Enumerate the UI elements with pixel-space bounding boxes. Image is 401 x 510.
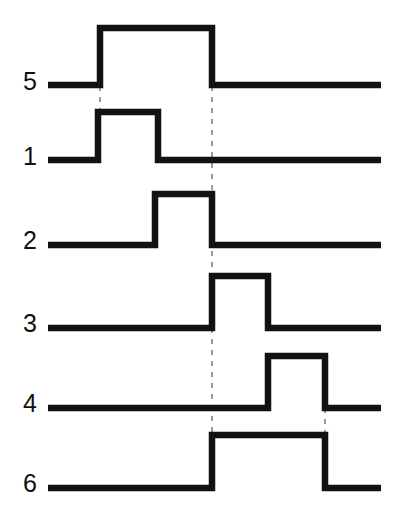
signal-label-3: 3: [23, 309, 37, 337]
signal-label-2: 2: [23, 226, 37, 254]
waveform-signal-5: [48, 28, 381, 85]
signal-label-1: 1: [23, 142, 37, 170]
timing-diagram-canvas: 512346: [0, 0, 401, 510]
waveform-signal-3: [48, 276, 381, 328]
waveform-signal-1: [48, 112, 381, 160]
guide-lines-group: [100, 86, 325, 436]
signal-label-6: 6: [23, 469, 37, 497]
waveform-signal-2: [48, 194, 381, 245]
waveform-signal-6: [48, 435, 381, 488]
waveform-signal-4: [48, 356, 381, 408]
waveforms-group: [48, 28, 381, 488]
signal-label-4: 4: [23, 389, 37, 417]
signal-label-5: 5: [23, 67, 37, 95]
timing-diagram-figure: 512346: [0, 0, 401, 510]
signal-labels-group: 512346: [23, 67, 37, 497]
